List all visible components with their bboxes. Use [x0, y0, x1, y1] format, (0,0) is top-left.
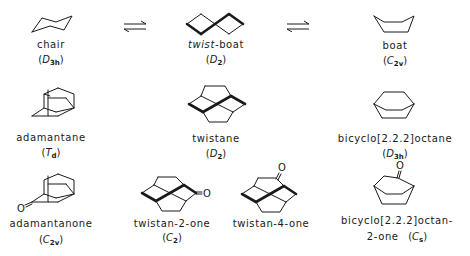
chair-symmetry: (D3h) [38, 54, 63, 67]
chair-label: chair [37, 39, 65, 50]
bicyclooctane-label: bicyclo[2.2.2]octane [338, 133, 452, 144]
bicyclooctanone-structure: O [372, 160, 422, 210]
adamantanone-structure: O [18, 172, 80, 212]
twist-boat-symmetry: (D2) [206, 54, 226, 67]
twist-boat-label: twist-boat [188, 39, 244, 50]
bicyclooctanone-label-line1: bicyclo[2.2.2]octan- [341, 215, 453, 226]
adamantane-symmetry: (Td) [42, 147, 61, 160]
twistan-2-one-structure: O [140, 175, 212, 215]
boat-structure [372, 12, 418, 36]
twistane-label: twistane [192, 133, 239, 144]
adamantane-structure [30, 86, 78, 122]
twistane-symmetry: (D2) [206, 148, 226, 161]
oxygen-atom: O [203, 188, 211, 199]
adamantanone-symmetry: (C2v) [39, 234, 63, 247]
oxygen-atom: O [278, 162, 286, 173]
twistane-structure [187, 84, 247, 124]
twistan-2-one-symmetry: (C2) [162, 232, 182, 245]
bicyclooctanone-label-line2: 2-one (Cs) [367, 231, 427, 244]
adamantane-label: adamantane [16, 132, 85, 143]
twistan-4-one-label: twistan-4-one [233, 218, 310, 229]
twistan-4-one-structure: O [240, 162, 302, 216]
bicyclooctane-structure [372, 88, 418, 122]
chair-structure [28, 12, 78, 36]
oxygen-atom: O [396, 160, 404, 171]
equilibrium-arrow-2 [285, 20, 311, 32]
oxygen-atom: O [17, 203, 25, 214]
boat-label: boat [383, 40, 408, 51]
equilibrium-arrow-1 [122, 20, 148, 32]
boat-symmetry: (C2v) [383, 55, 407, 68]
twistan-2-one-label: twistan-2-one [134, 218, 211, 229]
twist-boat-structure [185, 8, 247, 36]
adamantanone-label: adamantanone [9, 218, 92, 229]
